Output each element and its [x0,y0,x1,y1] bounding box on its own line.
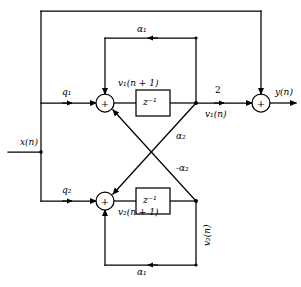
adder-sign-lower: + [101,196,109,207]
label-v1-next: v₁(n + 1) [118,79,159,88]
junction-dots [39,36,198,266]
diagram-canvas: + + + [0,0,301,287]
cross-branch-alpha2 [113,103,196,194]
label-delay-lower: z⁻¹ [143,195,157,205]
label-input-x: x(n) [20,138,38,147]
label-alpha1-bottom: α₁ [137,268,147,277]
label-v1: v₁(n) [205,110,227,119]
label-branch-q2: q₂ [62,186,71,195]
label-delay-upper: z⁻¹ [143,97,157,107]
label-v2: v₂(n) [203,224,212,246]
label-gain-2: 2 [215,86,221,95]
cross-branch-neg-alpha2 [113,110,196,201]
label-output-y: y(n) [275,88,293,97]
label-branch-q1: q₁ [62,88,71,97]
label-neg-alpha2: -α₂ [176,164,189,173]
adder-sign-upper: + [101,98,109,109]
label-alpha2: α₂ [176,132,186,141]
label-alpha1-top: α₁ [137,25,147,34]
label-v2-next: v₂(n + 1) [118,208,159,217]
adder-signs: + + + [101,98,265,207]
signal-flow-diagram: + + + x(n) q₁ q₂ v₁(n + 1) v₂(n + 1) v₁(… [0,0,301,287]
adder-sign-output: + [257,98,265,109]
